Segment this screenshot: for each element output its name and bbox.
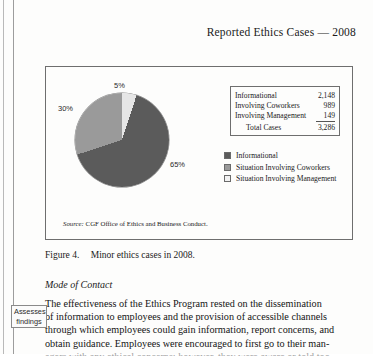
pie-graphic: [75, 93, 169, 187]
table-cell-value: 149: [316, 110, 335, 121]
chart-data-table: Informational 2,148 Involving Coworkers …: [230, 86, 340, 136]
section-heading: Mode of Contact: [45, 279, 112, 290]
paragraph-line: through which employees could gain infor…: [45, 323, 367, 336]
legend-item-management: Situation Involving Management: [224, 174, 336, 183]
table-cell-label: Informational: [235, 90, 316, 100]
paragraph-line-clipped: agers with any ethical concerns; however…: [45, 350, 367, 356]
table-row: Involving Management 149: [235, 110, 335, 121]
figure-number: Figure 4.: [45, 250, 79, 260]
legend-swatch-icon: [224, 164, 231, 171]
figure-source-note: Source: CGF Office of Ethics and Busines…: [63, 220, 208, 227]
table-cell-label: Involving Coworkers: [235, 100, 316, 110]
figure-caption-text: Minor ethics cases in 2008.: [91, 250, 195, 260]
pie-label-informational: 65%: [170, 160, 185, 169]
source-label: Source:: [63, 220, 84, 227]
paragraph-line: obtain guidance. Employees were encourag…: [45, 337, 367, 350]
table-row: Informational 2,148: [235, 90, 335, 100]
pie-label-coworkers: 30%: [58, 104, 73, 113]
legend-label: Informational: [236, 151, 278, 160]
pie-chart: 5% 30% 65%: [58, 81, 188, 199]
table-cell-total-label: Total Cases: [235, 121, 316, 132]
page-gutter-rule-outer: [3, 0, 4, 354]
legend-label: Situation Involving Coworkers: [236, 163, 330, 172]
table-row-total: Total Cases 3,286: [235, 121, 335, 132]
table-cell-value: 989: [316, 100, 335, 110]
legend-item-informational: Informational: [224, 151, 336, 160]
source-text: CGF Office of Ethics and Business Conduc…: [86, 220, 208, 227]
table-cell-total-value: 3,286: [316, 121, 335, 132]
table-cell-label: Involving Management: [235, 110, 316, 121]
margin-annotation-line1: Assesses: [14, 307, 46, 316]
legend-swatch-icon: [224, 152, 231, 159]
page-gutter-rule-inner: [13, 0, 14, 354]
margin-annotation-line2: findings: [16, 317, 41, 326]
legend-item-coworkers: Situation Involving Coworkers: [224, 163, 336, 172]
body-paragraph: The effectiveness of the Ethics Program …: [45, 297, 367, 356]
legend-label: Situation Involving Management: [236, 174, 336, 183]
running-header: Reported Ethics Cases — 2008: [207, 26, 356, 38]
paragraph-line: of information to employees and the prov…: [45, 310, 367, 323]
margin-annotation-box: Assesses findings: [11, 305, 47, 328]
table-row: Involving Coworkers 989: [235, 100, 335, 110]
figure-caption: Figure 4. Minor ethics cases in 2008.: [45, 250, 195, 260]
figure-frame: 5% 30% 65% Informational 2,148 Involving…: [45, 66, 353, 240]
chart-legend: Informational Situation Involving Cowork…: [224, 151, 336, 186]
legend-swatch-icon: [224, 175, 231, 182]
table-cell-value: 2,148: [316, 90, 335, 100]
paragraph-line: The effectiveness of the Ethics Program …: [45, 297, 367, 310]
pie-label-management: 5%: [114, 81, 125, 90]
